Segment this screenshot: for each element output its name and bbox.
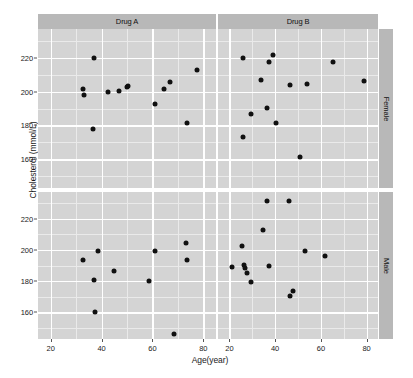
gridline-minor-horizontal: [38, 328, 216, 329]
y-axis-tick-label: 200: [7, 245, 33, 254]
gridline-minor-horizontal: [218, 41, 378, 42]
data-point: [265, 199, 270, 204]
x-axis-tick-label: 40: [98, 344, 106, 353]
data-point: [91, 277, 96, 282]
panel-drug-a-female: [38, 29, 216, 188]
gridline-major-vertical: [321, 29, 322, 188]
gridline-major-vertical: [152, 29, 153, 188]
data-point: [161, 87, 166, 92]
gridline-major-horizontal: [38, 92, 216, 93]
facet-strip-male-label: Male: [382, 258, 391, 274]
data-point: [274, 120, 279, 125]
gridline-major-vertical: [51, 192, 52, 339]
x-axis-tick-label: 80: [363, 344, 371, 353]
gridline-major-vertical: [152, 192, 153, 339]
facet-strip-female-label: Female: [382, 96, 391, 120]
facet-strip-female: Female: [379, 29, 393, 188]
facet-strip-drug-a-label: Drug A: [116, 17, 138, 26]
x-axis-tick-mark: [367, 339, 368, 342]
gridline-major-horizontal: [38, 159, 216, 160]
gridline-major-vertical: [367, 29, 368, 188]
data-point: [95, 249, 100, 254]
gridline-minor-horizontal: [218, 75, 378, 76]
data-point: [80, 87, 85, 92]
data-point: [291, 288, 296, 293]
gridline-major-horizontal: [38, 125, 216, 126]
data-point: [168, 80, 173, 85]
gridline-major-vertical: [102, 29, 103, 188]
gridline-major-horizontal: [218, 92, 378, 93]
data-point: [172, 332, 177, 337]
x-axis-tick-mark: [275, 339, 276, 342]
facet-strip-drug-b: Drug B: [218, 14, 378, 29]
gridline-major-vertical: [203, 192, 204, 339]
gridline-major-horizontal: [218, 219, 378, 220]
x-axis-tick-mark: [321, 339, 322, 342]
data-point: [126, 83, 131, 88]
data-point: [80, 258, 85, 263]
data-point: [265, 105, 270, 110]
data-point: [183, 240, 188, 245]
x-axis-tick-mark: [51, 339, 52, 342]
x-axis-tick-label: 40: [271, 344, 279, 353]
data-point: [259, 77, 264, 82]
x-axis-tick-mark: [229, 339, 230, 342]
y-axis-tick-label: 180: [7, 277, 33, 286]
x-axis-tick-label: 60: [317, 344, 325, 353]
gridline-minor-horizontal: [218, 234, 378, 235]
y-axis-tick-label: 220: [7, 214, 33, 223]
gridline-minor-horizontal: [218, 297, 378, 298]
gridline-major-vertical: [321, 192, 322, 339]
data-point: [286, 199, 291, 204]
data-point: [241, 55, 246, 60]
gridline-major-vertical: [51, 29, 52, 188]
data-point: [362, 79, 367, 84]
data-point: [146, 279, 151, 284]
data-point: [288, 82, 293, 87]
gridline-minor-horizontal: [218, 203, 378, 204]
data-point: [249, 112, 254, 117]
x-axis-tick-label: 60: [148, 344, 156, 353]
gridline-minor-horizontal: [218, 109, 378, 110]
x-axis-tick-mark: [203, 339, 204, 342]
data-point: [267, 263, 272, 268]
gridline-major-horizontal: [38, 58, 216, 59]
gridline-minor-horizontal: [38, 297, 216, 298]
gridline-major-horizontal: [38, 219, 216, 220]
data-point: [93, 309, 98, 314]
panel-drug-b-male: [218, 192, 378, 339]
gridline-minor-horizontal: [38, 176, 216, 177]
data-point: [305, 82, 310, 87]
data-point: [331, 60, 336, 65]
panel-drug-b-female: [218, 29, 378, 188]
facet-strip-male: Male: [379, 192, 393, 339]
gridline-major-horizontal: [38, 281, 216, 282]
y-axis-tick-mark: [34, 249, 37, 250]
gridline-minor-horizontal: [38, 203, 216, 204]
data-point: [194, 68, 199, 73]
panel-drug-a-male: [38, 192, 216, 339]
x-axis-title: Age(year): [30, 355, 390, 365]
x-axis-tick-label: 20: [225, 344, 233, 353]
data-point: [117, 88, 122, 93]
x-axis-tick-mark: [152, 339, 153, 342]
gridline-minor-horizontal: [38, 75, 216, 76]
y-axis-tick-mark: [34, 312, 37, 313]
data-point: [243, 265, 248, 270]
data-point: [153, 249, 158, 254]
data-point: [81, 93, 86, 98]
gridline-major-vertical: [275, 192, 276, 339]
data-point: [249, 279, 254, 284]
gridline-major-horizontal: [38, 250, 216, 251]
data-point: [302, 249, 307, 254]
gridline-major-horizontal: [218, 281, 378, 282]
gridline-minor-horizontal: [38, 266, 216, 267]
gridline-minor-horizontal: [38, 234, 216, 235]
data-point: [240, 244, 245, 249]
gridline-major-vertical: [275, 29, 276, 188]
data-point: [267, 60, 272, 65]
scatter-plot-figure: Cholesterol (mmol/L) Age(year) 160180200…: [0, 0, 413, 378]
data-point: [298, 154, 303, 159]
data-point: [153, 102, 158, 107]
gridline-minor-horizontal: [218, 328, 378, 329]
